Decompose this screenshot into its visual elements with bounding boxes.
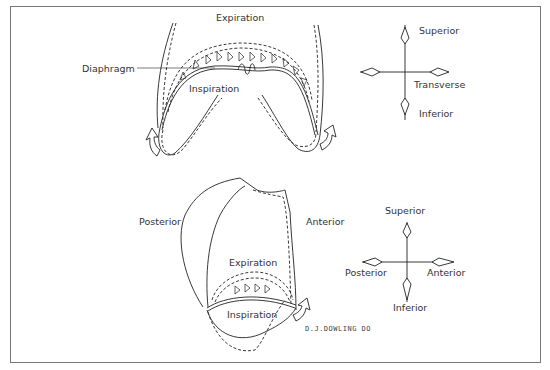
label-expiration-top: Expiration — [216, 13, 264, 23]
compass-bottom-posterior: Posterior — [345, 268, 387, 278]
compass-bottom-inferior: Inferior — [393, 303, 427, 313]
label-anterior-lateral: Anterior — [306, 217, 344, 227]
compass-top-superior: Superior — [419, 26, 459, 36]
compass-bottom-anterior: Anterior — [427, 268, 465, 278]
label-diaphragm: Diaphragm — [82, 64, 135, 74]
label-inspiration-top: Inspiration — [189, 84, 239, 94]
compass-bottom-superior: Superior — [385, 206, 425, 216]
label-posterior-lateral: Posterior — [139, 217, 181, 227]
artist-signature: D.J.DOWLING DO — [305, 325, 371, 333]
compass-lateral — [362, 222, 454, 302]
compass-top-inferior: Inferior — [419, 109, 453, 119]
compass-top-transverse: Transverse — [414, 80, 465, 90]
label-inspiration-bottom: Inspiration — [227, 310, 277, 320]
compass-frontal — [360, 25, 449, 120]
label-expiration-bottom: Expiration — [229, 258, 277, 268]
